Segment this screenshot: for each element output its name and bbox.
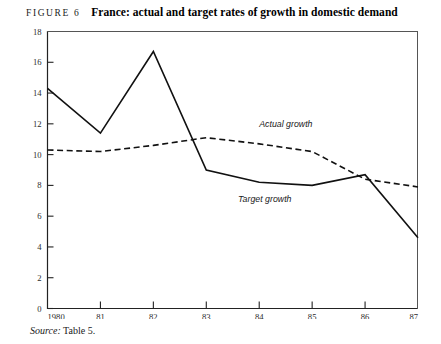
figure-container: FIGURE 6 France: actual and target rates… — [0, 0, 441, 344]
chart-axes-frame — [47, 31, 418, 309]
series-line-target-growth — [48, 52, 419, 238]
figure-title: France: actual and target rates of growt… — [91, 6, 398, 18]
y-tick-label: 10 — [33, 150, 42, 160]
x-tick-label: 86 — [361, 312, 370, 319]
source-reference: Table 5. — [63, 325, 95, 336]
annotation-target-growth: Target growth — [238, 194, 292, 204]
x-axis-tick-labels: 198081828384858687 — [48, 312, 419, 319]
source-label: Source: — [30, 325, 61, 336]
source-note: Source: Table 5. — [30, 325, 95, 336]
y-axis-tick-labels: 024681012141618 — [33, 27, 42, 314]
figure-title-row: FIGURE 6 France: actual and target rates… — [26, 6, 426, 24]
y-tick-label: 6 — [37, 211, 42, 221]
y-tick-label: 14 — [33, 88, 42, 98]
y-tick-label: 8 — [37, 180, 41, 190]
y-tick-label: 16 — [33, 57, 42, 67]
x-tick-label: 83 — [202, 312, 211, 319]
y-tick-label: 2 — [37, 273, 41, 283]
x-tick-label: 85 — [308, 312, 317, 319]
line-chart-svg: 024681012141618 198081828384858687 Actua… — [0, 24, 441, 319]
x-tick-label: 1980 — [48, 312, 65, 319]
chart-plot-area: 024681012141618 198081828384858687 Actua… — [0, 24, 441, 319]
x-tick-label: 82 — [149, 312, 158, 319]
y-tick-label: 18 — [33, 27, 42, 37]
x-axis-ticks — [100, 302, 365, 309]
figure-number-label: FIGURE 6 — [26, 8, 80, 18]
y-tick-label: 12 — [33, 119, 42, 129]
y-tick-label: 4 — [37, 242, 42, 252]
y-axis-ticks — [48, 62, 54, 308]
y-tick-label: 0 — [37, 304, 41, 314]
x-tick-label: 81 — [96, 312, 105, 319]
series-line-actual-growth — [48, 138, 419, 187]
x-tick-label: 87 — [409, 312, 418, 319]
annotation-actual-growth: Actual growth — [258, 119, 312, 129]
x-tick-label: 84 — [255, 312, 264, 319]
